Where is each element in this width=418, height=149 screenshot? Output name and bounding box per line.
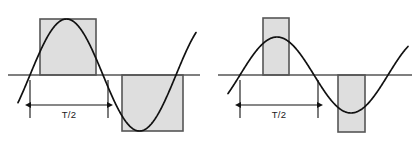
left-dimension-label: T/2	[62, 109, 76, 120]
right-negative-half-cycle-rect	[338, 75, 365, 132]
right-dimension-label: T/2	[272, 109, 286, 120]
left-panel: T/2	[8, 19, 200, 131]
left-positive-half-cycle-rect	[40, 19, 96, 75]
figure-canvas: T/2 T/2	[0, 0, 418, 149]
right-panel: T/2	[218, 18, 412, 132]
right-half-period-dimension: T/2	[240, 80, 318, 120]
left-half-period-dimension: T/2	[30, 80, 108, 120]
sine-rectangle-figure: T/2 T/2	[0, 0, 418, 149]
right-positive-half-cycle-rect	[263, 18, 289, 75]
